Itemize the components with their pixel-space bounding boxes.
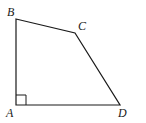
vertex-label-d: D xyxy=(117,106,127,120)
quadrilateral-abcd xyxy=(16,19,120,105)
vertex-label-b: B xyxy=(7,5,15,19)
right-angle-marker-icon xyxy=(16,95,26,105)
vertex-label-c: C xyxy=(78,19,87,33)
vertex-label-a: A xyxy=(5,106,14,120)
quadrilateral-diagram: B C A D xyxy=(0,0,146,123)
